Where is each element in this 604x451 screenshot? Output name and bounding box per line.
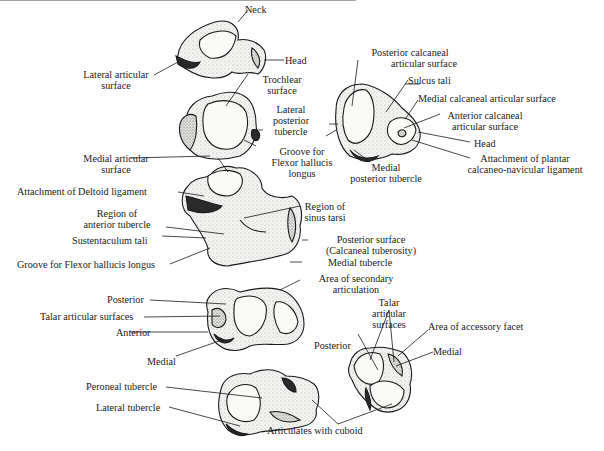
label-area-secondary-articulation: Area of secondary articulation (308, 273, 404, 295)
label-anterior-talar-left: Anterior (116, 327, 151, 338)
label-lateral-articular-surface: Lateral articular surface (76, 69, 156, 91)
label-posterior-talar-right: Posterior (314, 340, 351, 351)
talus-inferior-view (336, 84, 421, 161)
label-attachment-plantar-ligament: Attachment of plantar calcaneo-navicular… (458, 153, 592, 175)
label-posterior-calcaneal-articular-surface: Posterior calcaneal articular surface (355, 47, 465, 69)
label-articulates-with-cuboid: Articulates with cuboid (267, 425, 363, 436)
label-head-talus: Head (285, 55, 307, 66)
label-groove-flexor-hallucis-calcaneus: Groove for Flexor hallucis longus (17, 259, 155, 270)
label-region-sinus-tarsi: Region of sinus tarsi (300, 201, 350, 223)
calcaneus-anterior-view (349, 347, 412, 412)
label-area-accessory-facet: Area of accessory facet (428, 321, 523, 332)
label-lateral-posterior-tubercle: Lateral posterior tubercle (256, 104, 326, 137)
label-medial-articular-surface: Medial articular surface (76, 153, 156, 175)
label-talar-articular-surfaces-left: Talar articular surfaces (40, 311, 133, 322)
label-medial-talar-left: Medial (147, 356, 176, 367)
label-talar-articular-surfaces-right: Talar articular surfaces (362, 297, 416, 330)
talus-lateral-view (176, 21, 266, 78)
label-attachment-deltoid-ligament: Attachment of Deltoid ligament (17, 186, 147, 197)
label-medial-posterior-tubercle: Medial posterior tubercle (344, 162, 428, 184)
label-medial-talar-right: Medial (433, 346, 462, 357)
label-medial-calcaneal-articular-surface: Medial calcaneal articular surface (418, 93, 556, 104)
label-sulcus-tali: Sulcus tali (408, 75, 451, 86)
label-region-anterior-tubercle: Region of anterior tubercle (72, 208, 162, 230)
label-lateral-tubercle: Lateral tubercle (96, 402, 160, 413)
label-medial-tubercle: Medial tubercle (328, 257, 392, 268)
talus-superior-view (179, 92, 259, 159)
label-groove-flexor-hallucis-talus: Groove for Flexor hallucis longus (264, 146, 340, 179)
label-neck: Neck (245, 4, 267, 15)
calcaneus-superior-view (207, 288, 304, 350)
label-trochlear-surface: Trochlear surface (252, 74, 312, 96)
label-posterior-talar-left: Posterior (107, 294, 144, 305)
calcaneus-medial-view (182, 166, 301, 266)
anatomy-figure: Neck Head Lateral articular surface Troc… (0, 0, 604, 451)
label-head-inferior: Head (474, 138, 496, 149)
label-anterior-calcaneal-articular-surface: Anterior calcaneal articular surface (440, 110, 530, 132)
label-posterior-surface-calcaneal-tuberosity: Posterior surface (Calcaneal tuberosity) (316, 234, 426, 256)
label-peroneal-tubercle: Peroneal tubercle (86, 381, 157, 392)
label-sustentaculum-tali: Sustentaculum tali (72, 235, 148, 246)
